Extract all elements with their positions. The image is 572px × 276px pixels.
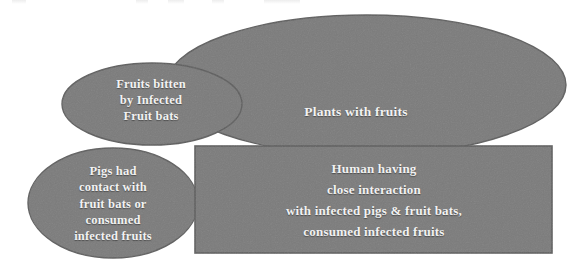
diagram-canvas: Plants with fruits Fruits bitten by Infe…	[0, 0, 572, 276]
fruits-bitten-ellipse	[62, 63, 242, 145]
diagram-shapes	[0, 0, 572, 276]
human-interaction-rectangle	[195, 146, 552, 253]
pigs-contact-ellipse	[28, 148, 198, 258]
